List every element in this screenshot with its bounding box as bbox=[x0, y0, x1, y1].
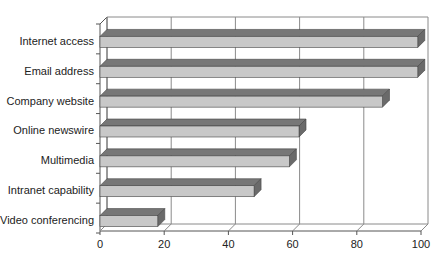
x-tick-label: 20 bbox=[158, 238, 170, 250]
x-tick-label: 40 bbox=[222, 238, 234, 250]
x-tick-label: 80 bbox=[351, 238, 363, 250]
x-axis-ticks: 020406080100 bbox=[97, 238, 430, 250]
category-label: Video conferencing bbox=[0, 214, 94, 226]
bar bbox=[100, 119, 306, 137]
bar bbox=[100, 179, 261, 197]
bar bbox=[100, 209, 165, 227]
category-label: Multimedia bbox=[41, 154, 95, 166]
bar-chart: Internet accessEmail addressCompany webs… bbox=[0, 0, 445, 259]
bar bbox=[100, 89, 389, 107]
category-label: Online newswire bbox=[13, 124, 94, 136]
category-label: Email address bbox=[24, 65, 94, 77]
category-label: Company website bbox=[7, 95, 94, 107]
x-tick-label: 100 bbox=[412, 238, 430, 250]
category-label: Intranet capability bbox=[8, 184, 95, 196]
bar bbox=[100, 149, 296, 167]
bars bbox=[100, 29, 425, 226]
bar bbox=[100, 29, 425, 47]
category-label: Internet access bbox=[19, 35, 94, 47]
x-tick-label: 60 bbox=[286, 238, 298, 250]
x-tick-label: 0 bbox=[97, 238, 103, 250]
category-labels: Internet accessEmail addressCompany webs… bbox=[0, 35, 95, 226]
bar bbox=[100, 59, 425, 77]
